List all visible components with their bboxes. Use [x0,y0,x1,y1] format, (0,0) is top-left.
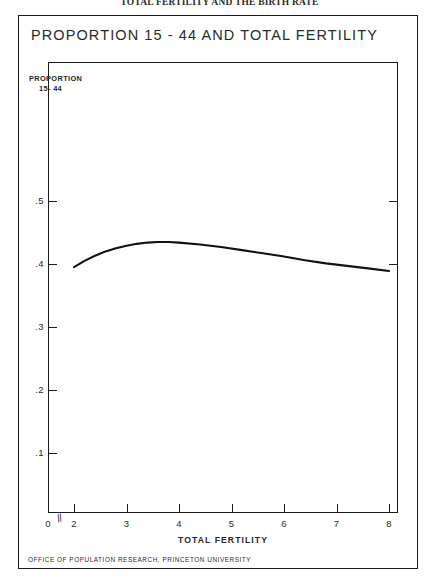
x-tick-label-3: 3 [118,518,136,529]
figure-page: TOTAL FERTILITY AND THE BIRTH RATE PROPO… [0,0,439,583]
y-tick-label-0.1: .1 [22,447,44,458]
y-tick-mark-0.4 [48,264,57,265]
footer-credit: OFFICE OF POPULATION RESEARCH, PRINCETON… [28,556,251,563]
x-tick-mark-6 [284,504,285,513]
x-tick-mark-8 [389,504,390,513]
y-tick-label-0.2: .2 [22,384,44,395]
plot-frame [48,62,398,513]
y-tick-mark-0.3 [48,327,57,328]
x-tick-label-4: 4 [170,518,188,529]
y-axis-label: PROPORTION 15- 44 [29,74,82,94]
y-axis-label-line1: PROPORTION [29,74,82,83]
x-tick-mark-3 [127,504,128,513]
y-tick-label-0.3: .3 [22,321,44,332]
x-tick-label-8: 8 [380,518,398,529]
y-tick-mark-0.5 [48,201,57,202]
running-head: TOTAL FERTILITY AND THE BIRTH RATE [0,0,439,7]
y-tick-mark-0.2 [48,390,57,391]
y-axis-label-line2: 15- 44 [29,84,82,94]
x-tick-label-6: 6 [275,518,293,529]
y-tick-mark-right-0.5 [389,201,398,202]
y-tick-mark-right-0.4 [389,264,398,265]
x-tick-label-2: 2 [65,518,83,529]
x-tick-mark-4 [179,504,180,513]
x-tick-label-5: 5 [223,518,241,529]
x-tick-mark-5 [232,504,233,513]
figure-title: PROPORTION 15 - 44 AND TOTAL FERTILITY [31,27,378,43]
x-tick-label-7: 7 [328,518,346,529]
y-tick-mark-0.1 [48,453,57,454]
y-tick-label-0.5: .5 [22,195,44,206]
x-tick-mark-2 [74,504,75,513]
x-tick-mark-7 [337,504,338,513]
x-axis-origin-label: 0 [39,518,57,529]
y-tick-label-0.4: .4 [22,258,44,269]
x-axis-label: TOTAL FERTILITY [48,535,398,545]
